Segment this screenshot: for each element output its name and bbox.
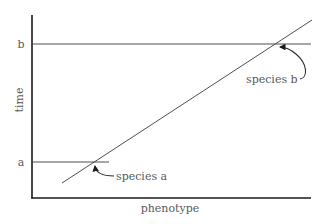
species-a-label: species a xyxy=(116,170,168,183)
x-axis-label: phenotype xyxy=(141,202,200,215)
y-tick-label-a: a xyxy=(18,156,25,169)
y-axis-label: time xyxy=(13,88,26,113)
y-tick-label-b: b xyxy=(17,38,24,51)
species-b-label: species b xyxy=(246,73,298,86)
phenotype-time-diagram: b a time phenotype species a species b xyxy=(0,0,332,224)
species-a-arrow-icon xyxy=(95,166,114,176)
